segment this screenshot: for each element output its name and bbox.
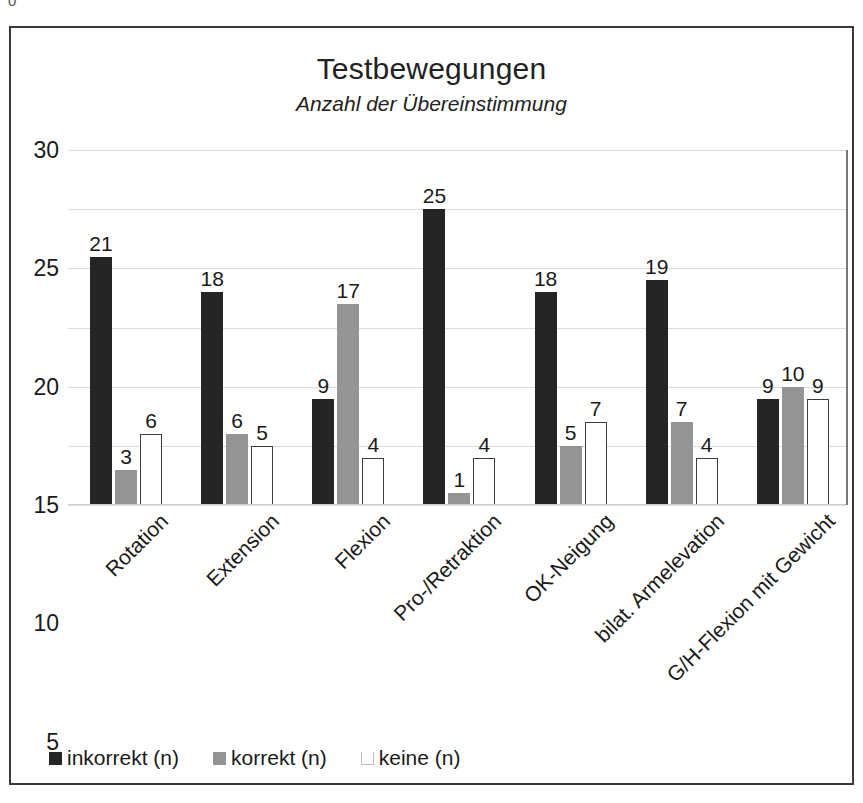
category-label: Flexion xyxy=(330,509,395,574)
legend-swatch-icon xyxy=(361,752,374,765)
y-axis-tick-25: 25 xyxy=(33,255,59,282)
bar-value-label: 6 xyxy=(131,410,171,431)
bar-value-label: 4 xyxy=(464,434,504,455)
bar xyxy=(251,446,273,505)
bar-group: 9174 xyxy=(312,150,384,505)
bar xyxy=(646,280,668,505)
y-axis-tick-10: 10 xyxy=(33,610,59,637)
bar xyxy=(757,399,779,506)
bar xyxy=(337,304,359,505)
legend-item[interactable]: keine (n) xyxy=(361,746,461,770)
y-axis-tick-15: 15 xyxy=(33,492,59,519)
chart-legend: inkorrekt (n)korrekt (n)keine (n) xyxy=(49,746,494,770)
legend-swatch-icon xyxy=(49,752,62,765)
legend-label: keine (n) xyxy=(379,746,461,770)
bar xyxy=(90,257,112,506)
bar-group: 1974 xyxy=(646,150,718,505)
bar-value-label: 9 xyxy=(798,375,838,396)
bar-value-label: 25 xyxy=(414,185,454,206)
bar xyxy=(807,399,829,506)
y-axis-tick-30: 30 xyxy=(33,137,59,164)
category-label: Pro-/Retraktion xyxy=(390,509,507,626)
bar xyxy=(423,209,445,505)
bar xyxy=(696,458,718,505)
bar xyxy=(362,458,384,505)
bar-group: 9109 xyxy=(757,150,829,505)
legend-item[interactable]: inkorrekt (n) xyxy=(49,746,179,770)
bar xyxy=(535,292,557,505)
chart-subtitle: Anzahl der Übereinstimmung xyxy=(11,92,852,116)
bar-group: 2514 xyxy=(423,150,495,505)
bar xyxy=(473,458,495,505)
page-edge-artifact: 0 xyxy=(8,0,54,8)
legend-swatch-icon xyxy=(213,752,226,765)
plot-area: 051015202530 213618659174251418571974910… xyxy=(68,150,846,505)
bar-group: 1865 xyxy=(201,150,273,505)
bar-group: 1857 xyxy=(535,150,607,505)
bar-value-label: 21 xyxy=(81,233,121,254)
bar-value-label: 18 xyxy=(526,268,566,289)
y-axis-tick-20: 20 xyxy=(33,373,59,400)
bar-value-label: 7 xyxy=(576,398,616,419)
bar-value-label: 17 xyxy=(328,280,368,301)
axis-right xyxy=(846,150,848,505)
category-label: OK-Neigung xyxy=(519,509,618,608)
bar-value-label: 4 xyxy=(687,434,727,455)
legend-label: inkorrekt (n) xyxy=(67,746,179,770)
bar xyxy=(782,387,804,505)
chart-title: Testbewegungen xyxy=(11,52,852,86)
bar xyxy=(115,470,137,506)
bar-value-label: 7 xyxy=(662,398,702,419)
bar xyxy=(312,399,334,506)
bar-value-label: 18 xyxy=(192,268,232,289)
bar xyxy=(585,422,607,505)
gridline-0: 0 xyxy=(68,505,846,506)
bar-value-label: 5 xyxy=(242,422,282,443)
bar-group: 2136 xyxy=(90,150,162,505)
bar xyxy=(201,292,223,505)
bar xyxy=(140,434,162,505)
legend-item[interactable]: korrekt (n) xyxy=(213,746,327,770)
bar-value-label: 19 xyxy=(637,256,677,277)
legend-label: korrekt (n) xyxy=(231,746,327,770)
bar xyxy=(560,446,582,505)
axis-baseline xyxy=(68,504,846,505)
category-label: Rotation xyxy=(101,509,173,581)
bar xyxy=(226,434,248,505)
chart-frame: Testbewegungen Anzahl der Übereinstimmun… xyxy=(9,26,854,785)
bar-value-label: 4 xyxy=(353,434,393,455)
category-label: Extension xyxy=(202,509,284,591)
